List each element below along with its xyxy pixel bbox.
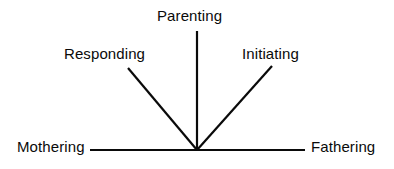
initiating-axis-label: Initiating — [242, 45, 299, 62]
parenting-axis-label: Parenting — [157, 7, 222, 24]
parenting-axis-line — [197, 66, 272, 150]
fathering-axis-label: Fathering — [311, 138, 375, 155]
mothering-axis-label: Mothering — [17, 138, 85, 155]
parenting-dimensions-diagram: Parenting Responding Initiating Motherin… — [0, 0, 394, 169]
fathering-axis-line — [128, 68, 197, 150]
responding-axis-label: Responding — [64, 45, 145, 62]
